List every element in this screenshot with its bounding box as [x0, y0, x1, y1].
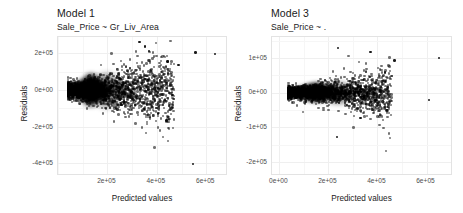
gridline: [272, 127, 451, 128]
data-point: [131, 84, 133, 86]
data-point: [130, 93, 132, 95]
data-point: [386, 116, 388, 118]
data-point: [152, 51, 154, 53]
data-point: [348, 107, 350, 109]
data-point: [160, 117, 162, 119]
data-point: [340, 76, 342, 78]
data-point: [151, 102, 153, 104]
data-point: [359, 74, 361, 76]
data-point: [337, 47, 340, 50]
data-point: [375, 92, 377, 94]
data-point: [352, 126, 354, 128]
data-point: [385, 95, 387, 97]
data-point: [73, 80, 75, 82]
data-point: [124, 105, 126, 107]
data-point: [70, 81, 72, 83]
data-point: [330, 79, 332, 81]
data-point: [157, 112, 160, 115]
data-point: [428, 99, 431, 102]
x-tick-label: 4e+05: [367, 177, 386, 184]
x-tick-label: 4e+05: [147, 177, 166, 184]
data-point: [335, 75, 337, 77]
data-point: [134, 122, 136, 124]
data-point: [374, 100, 376, 102]
data-point: [322, 109, 324, 111]
data-point: [382, 74, 384, 76]
data-point: [157, 115, 159, 117]
data-point: [104, 107, 106, 109]
data-point: [142, 94, 144, 96]
data-point: [141, 126, 143, 128]
y-tick-label: 2e+05: [23, 49, 53, 56]
x-tick-label: 6e+05: [416, 177, 435, 184]
data-point: [291, 97, 293, 99]
data-point: [177, 64, 180, 67]
data-point: [129, 106, 131, 108]
gridline: [272, 145, 451, 146]
data-point: [158, 75, 160, 77]
data-point: [153, 55, 155, 57]
chart-panel-model-1: Model 1 Sale_Price ~ Gr_Liv_Area Residua…: [0, 0, 236, 213]
data-point: [135, 95, 137, 97]
data-point: [146, 123, 148, 125]
data-point: [116, 108, 118, 110]
x-tick-label: 2e+05: [318, 177, 337, 184]
data-point: [390, 104, 392, 106]
data-point: [136, 90, 138, 92]
data-point: [168, 102, 170, 104]
data-point: [139, 74, 141, 76]
data-point: [128, 115, 130, 117]
data-point: [359, 96, 361, 98]
data-point: [386, 77, 388, 79]
data-point: [384, 71, 387, 74]
data-point: [364, 86, 366, 88]
data-point: [390, 114, 392, 116]
data-point: [363, 75, 365, 77]
gridline: [83, 37, 84, 174]
data-point: [135, 69, 137, 71]
data-point: [351, 102, 353, 104]
data-point: [363, 111, 365, 113]
data-point: [141, 79, 143, 81]
data-point: [350, 111, 352, 113]
data-point: [137, 84, 139, 86]
gridline: [272, 41, 451, 42]
data-point: [378, 109, 380, 111]
data-point: [125, 65, 127, 67]
data-point: [387, 93, 389, 95]
data-point: [136, 62, 138, 64]
data-point: [381, 80, 383, 82]
data-point: [356, 110, 358, 112]
data-point: [151, 71, 153, 73]
data-point: [373, 111, 375, 113]
data-point: [145, 94, 147, 96]
data-point: [145, 62, 147, 64]
data-point: [349, 71, 351, 73]
data-point: [141, 61, 143, 63]
data-point: [369, 51, 372, 54]
data-point: [146, 79, 148, 81]
data-point: [367, 82, 369, 84]
data-point: [153, 83, 155, 85]
data-point: [385, 150, 387, 152]
data-point: [169, 84, 171, 86]
y-tick-label: -2e+05: [23, 122, 53, 129]
data-point: [161, 93, 163, 95]
data-point: [362, 79, 364, 81]
data-point: [343, 67, 345, 69]
data-point: [137, 102, 139, 104]
data-point: [120, 104, 122, 106]
data-point: [119, 83, 121, 85]
data-point: [129, 58, 131, 60]
data-point: [354, 78, 356, 80]
data-point: [289, 92, 291, 94]
data-point: [365, 62, 367, 64]
data-point: [159, 129, 161, 131]
data-point: [171, 88, 173, 90]
data-point: [147, 70, 149, 72]
gridline: [58, 37, 59, 174]
x-axis-title-model-1: Predicted values: [57, 194, 227, 203]
panel-title-model-3: Model 3: [271, 7, 309, 19]
data-point: [113, 111, 115, 113]
data-point: [158, 109, 160, 111]
